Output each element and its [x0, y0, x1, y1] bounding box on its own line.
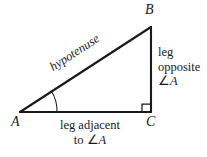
angle-variable-a: A	[99, 133, 107, 147]
adjacent-leg-label: leg adjacent to ∠A	[34, 118, 146, 147]
vertex-label-a: A	[11, 114, 20, 130]
adjacent-leg-label-prefix: to	[74, 133, 87, 147]
right-angle-marker-icon	[142, 104, 151, 112]
angle-arc-a	[51, 91, 57, 113]
triangle-figure: A B C hypotenuse leg opposite ∠A leg adj…	[0, 0, 207, 157]
vertex-label-c: C	[146, 114, 155, 130]
adjacent-leg-label-line2: to ∠A	[34, 133, 146, 148]
vertex-label-b: B	[145, 2, 154, 18]
adjacent-leg-label-line1: leg adjacent	[34, 118, 146, 133]
opposite-leg-label-line1: leg	[158, 45, 200, 60]
angle-symbol-icon: ∠	[158, 74, 170, 88]
opposite-leg-label-line2: opposite	[158, 60, 200, 75]
angle-symbol-icon: ∠	[87, 133, 99, 147]
opposite-leg-label-line3: ∠A	[158, 74, 200, 89]
angle-variable-a: A	[170, 74, 178, 88]
opposite-leg-label: leg opposite ∠A	[158, 45, 200, 89]
